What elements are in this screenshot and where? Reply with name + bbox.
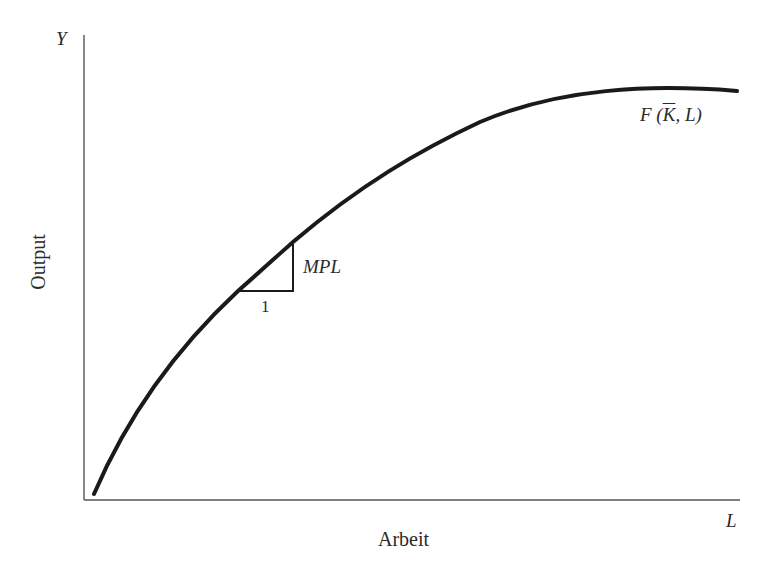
curve-label-prefix: F ( (640, 104, 663, 125)
curve-label-suffix: , L) (675, 104, 701, 125)
production-curve (94, 88, 737, 494)
mpl-label: MPL (303, 256, 341, 278)
y-axis-symbol: Y (56, 28, 67, 50)
y-axis-title: Output (27, 234, 50, 290)
curve-label: F (K, L) (640, 104, 702, 126)
x-axis-title: Arbeit (378, 528, 429, 551)
production-function-diagram (0, 0, 774, 575)
curve-label-capital: K (663, 104, 676, 125)
run-label: 1 (261, 297, 270, 317)
x-axis-symbol: L (726, 510, 737, 532)
